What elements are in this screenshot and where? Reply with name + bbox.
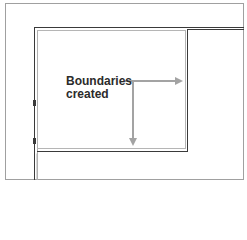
arrow-right-head-icon <box>175 77 183 85</box>
label-line-2: created <box>66 88 132 101</box>
arrow-down-head-icon <box>129 138 137 146</box>
boundaries-created-label: Boundaries created <box>66 75 132 101</box>
